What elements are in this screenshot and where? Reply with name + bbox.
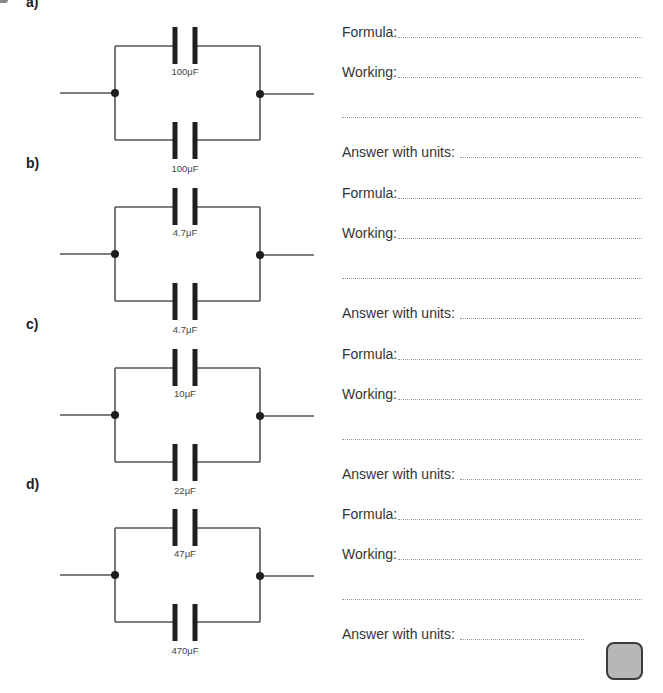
answer-units-line[interactable] — [460, 479, 642, 480]
answer-label: Answer with units: — [342, 466, 455, 482]
working-row: Working: — [342, 384, 642, 402]
parallel-capacitor-circuit — [0, 322, 330, 483]
answer-row: Answer with units: — [342, 624, 642, 642]
capacitor-bottom-icon — [173, 122, 198, 159]
answer-label: Answer with units: — [342, 305, 455, 321]
working-extra-line[interactable] — [342, 439, 642, 440]
junction-right-icon — [256, 90, 264, 98]
capacitor-bottom-icon — [173, 444, 198, 481]
working-label: Working: — [342, 386, 397, 402]
junction-left-icon — [111, 411, 119, 419]
answer-row: Answer with units: — [342, 464, 642, 482]
capacitor-bottom-label: 470μF — [155, 645, 215, 656]
parallel-capacitor-circuit — [0, 482, 330, 643]
capacitor-top-icon — [173, 188, 198, 225]
formula-answer-line[interactable] — [398, 359, 642, 360]
working-answer-line[interactable] — [398, 77, 642, 78]
capacitor-top-label: 100μF — [155, 66, 215, 77]
working-extra-line[interactable] — [342, 117, 642, 118]
formula-row: Formula: — [342, 183, 642, 201]
parallel-capacitor-circuit — [0, 0, 330, 161]
formula-row: Formula: — [342, 504, 642, 522]
working-answer-line[interactable] — [398, 559, 642, 560]
answer-units-line[interactable] — [460, 318, 642, 319]
capacitor-top-icon — [173, 509, 198, 546]
junction-left-icon — [111, 89, 119, 97]
capacitor-top-label: 47μF — [155, 548, 215, 559]
formula-answer-line[interactable] — [398, 37, 642, 38]
completion-checkbox[interactable] — [606, 642, 643, 680]
formula-row: Formula: — [342, 344, 642, 362]
formula-answer-line[interactable] — [398, 519, 642, 520]
answer-row: Answer with units: — [342, 142, 642, 160]
question-section-b: b) — [0, 161, 663, 322]
working-row: Working: — [342, 544, 642, 562]
answer-units-line[interactable] — [460, 639, 584, 640]
junction-left-icon — [111, 571, 119, 579]
question-section-a: a) — [0, 0, 663, 161]
working-label: Working: — [342, 225, 397, 241]
junction-right-icon — [256, 412, 264, 420]
capacitor-top-icon — [173, 27, 198, 64]
formula-answer-line[interactable] — [398, 198, 642, 199]
working-label: Working: — [342, 64, 397, 80]
capacitor-bottom-icon — [173, 283, 198, 320]
answer-label: Answer with units: — [342, 144, 455, 160]
junction-left-icon — [111, 250, 119, 258]
working-answer-line[interactable] — [398, 399, 642, 400]
capacitor-top-icon — [173, 349, 198, 386]
working-label: Working: — [342, 546, 397, 562]
question-section-d: d) — [0, 482, 663, 643]
capacitor-bottom-icon — [173, 604, 198, 641]
junction-right-icon — [256, 572, 264, 580]
junction-right-icon — [256, 251, 264, 259]
working-extra-line[interactable] — [342, 278, 642, 279]
working-answer-line[interactable] — [398, 238, 642, 239]
formula-label: Formula: — [342, 185, 397, 201]
formula-label: Formula: — [342, 506, 397, 522]
capacitor-top-label: 10μF — [155, 388, 215, 399]
formula-label: Formula: — [342, 24, 397, 40]
answer-units-line[interactable] — [460, 157, 642, 158]
working-row: Working: — [342, 223, 642, 241]
parallel-capacitor-circuit — [0, 161, 330, 322]
working-extra-line[interactable] — [342, 599, 642, 600]
question-section-c: c) — [0, 322, 663, 483]
capacitor-top-label: 4.7μF — [155, 227, 215, 238]
working-row: Working: — [342, 62, 642, 80]
formula-label: Formula: — [342, 346, 397, 362]
formula-row: Formula: — [342, 22, 642, 40]
answer-label: Answer with units: — [342, 626, 455, 642]
answer-row: Answer with units: — [342, 303, 642, 321]
